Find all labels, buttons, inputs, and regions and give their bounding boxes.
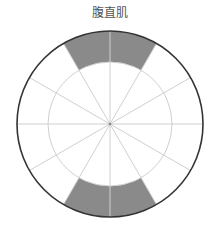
center-point: [109, 123, 112, 126]
muscle-region-wheel: [0, 0, 215, 237]
